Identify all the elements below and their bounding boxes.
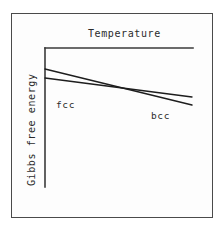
chart-title: Temperature: [88, 28, 161, 39]
gibbs-free-energy-chart: Temperature Gibbs free energy fcc bcc: [0, 0, 224, 229]
fcc-line: [45, 78, 192, 97]
series-label-bcc: bcc: [151, 110, 170, 121]
series-label-fcc: fcc: [56, 99, 75, 110]
y-axis-label: Gibbs free energy: [26, 73, 37, 186]
